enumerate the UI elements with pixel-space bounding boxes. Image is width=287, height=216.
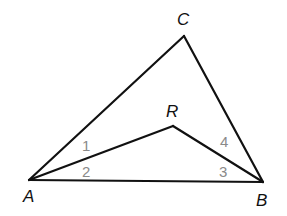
segment-ab — [29, 180, 263, 182]
angle-label-3: 3 — [219, 163, 227, 180]
triangle-diagram: A B C R 1 2 3 4 — [0, 0, 287, 216]
vertex-label-b: B — [256, 191, 267, 210]
angle-label-1: 1 — [82, 137, 90, 154]
segment-rb — [173, 126, 263, 182]
vertex-label-r: R — [166, 102, 178, 121]
vertex-label-a: A — [22, 187, 34, 206]
vertex-label-c: C — [177, 10, 190, 29]
angle-label-2: 2 — [82, 163, 90, 180]
segment-cb — [184, 36, 263, 182]
segment-ar — [29, 126, 173, 180]
angle-label-4: 4 — [220, 133, 228, 150]
segment-ac — [29, 36, 184, 180]
